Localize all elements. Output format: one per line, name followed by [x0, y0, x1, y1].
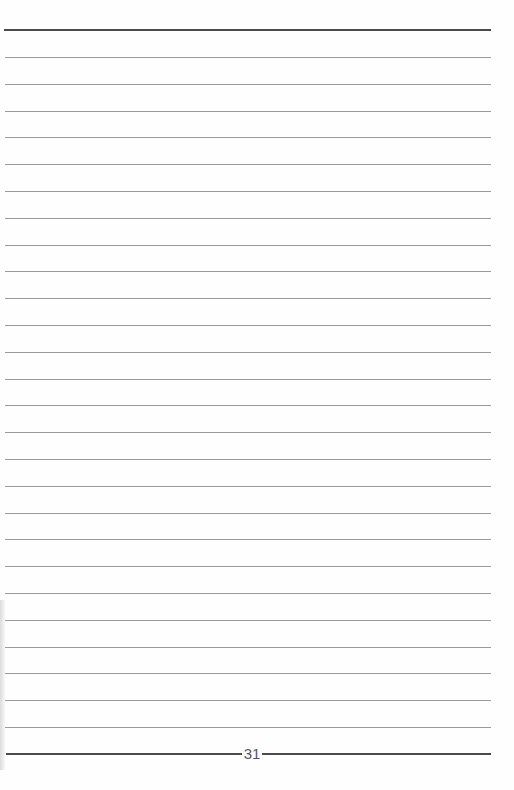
ruled-line [5, 379, 491, 380]
ruled-line [5, 137, 491, 138]
ruled-line [5, 271, 491, 272]
ruled-line [5, 84, 491, 85]
ruled-line [5, 57, 491, 58]
ruled-line [5, 486, 491, 487]
footer-rule-left [6, 753, 242, 755]
ruled-line [5, 111, 491, 112]
ruled-line [5, 218, 491, 219]
ruled-line [5, 566, 491, 567]
ruled-line [5, 727, 491, 728]
ruled-line [5, 405, 491, 406]
ruled-line [5, 245, 491, 246]
ruled-line [5, 673, 491, 674]
ruled-line [5, 432, 491, 433]
ruled-line [5, 647, 491, 648]
page-footer: 31 [6, 744, 491, 764]
ruled-line [5, 513, 491, 514]
ruled-line [5, 620, 491, 621]
ruled-line [5, 593, 491, 594]
page-number: 31 [242, 744, 262, 764]
top-rule [4, 29, 491, 31]
notebook-page: 31 [0, 0, 514, 790]
ruled-line [5, 325, 491, 326]
ruled-line [5, 298, 491, 299]
ruled-line [5, 191, 491, 192]
ruled-line [5, 352, 491, 353]
ruled-line [5, 164, 491, 165]
ruled-line [5, 700, 491, 701]
footer-rule-right [262, 753, 491, 755]
ruled-line [5, 459, 491, 460]
ruled-line [5, 539, 491, 540]
